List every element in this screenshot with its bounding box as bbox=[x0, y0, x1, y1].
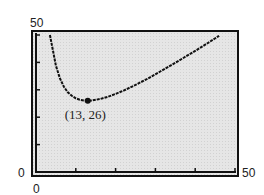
minimum-point-marker bbox=[85, 98, 91, 104]
y-max-label: 50 bbox=[30, 16, 44, 30]
chart: (13, 26) 50 0 0 50 bbox=[0, 0, 264, 195]
x-max-label: 50 bbox=[242, 166, 256, 180]
x-min-label: 0 bbox=[33, 182, 40, 195]
plot-area bbox=[32, 31, 238, 176]
minimum-point-label: (13, 26) bbox=[65, 107, 106, 122]
y-min-label: 0 bbox=[18, 166, 25, 180]
